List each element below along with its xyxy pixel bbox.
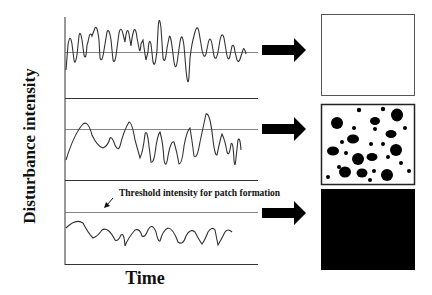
signal-high [66, 20, 246, 81]
empty-box [322, 15, 415, 96]
x-axis-label: Time [100, 268, 190, 289]
patchy-box [322, 105, 415, 185]
signal-mid [66, 114, 241, 165]
threshold-annotation: Threshold intensity for patch formation [119, 188, 280, 198]
arrow-right-icon [262, 117, 306, 141]
arrow-right-icon [262, 38, 306, 62]
disturbance-diagram [0, 0, 432, 295]
signal-low [66, 221, 232, 246]
arrow-right-icon [262, 201, 306, 225]
y-axis-label: Disturbance intensity [17, 41, 43, 251]
threshold-pointer-arrow [104, 198, 113, 208]
solid-box [321, 189, 415, 270]
